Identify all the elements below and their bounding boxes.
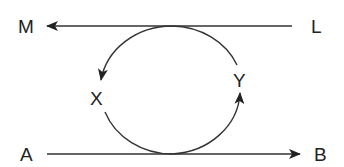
label-a: A <box>20 145 33 164</box>
arc-top-to-x <box>101 26 172 80</box>
label-l: L <box>311 17 322 36</box>
diagram-canvas <box>0 0 344 167</box>
label-b: B <box>314 145 327 164</box>
label-m: M <box>18 17 34 36</box>
arc-y-to-top <box>172 26 237 65</box>
label-x: X <box>90 89 103 108</box>
label-y: Y <box>233 71 246 90</box>
arc-x-to-bottom <box>105 112 172 154</box>
arc-bottom-to-y <box>172 93 240 154</box>
